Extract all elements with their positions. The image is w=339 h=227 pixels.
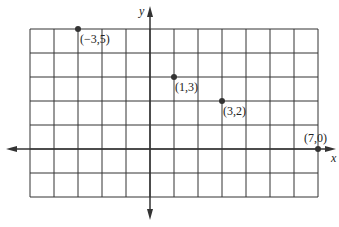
point-label: (1,3) [175, 80, 198, 94]
point-label: (7,0) [304, 131, 327, 145]
x-axis-label: x [330, 151, 337, 165]
point-label: (3,2) [223, 104, 246, 118]
x-axis-left-arrow-icon [6, 146, 17, 152]
plotted-points: (−3,5)(1,3)(3,2)(7,0) [75, 26, 327, 152]
coordinate-plane: x y (−3,5)(1,3)(3,2)(7,0) [0, 0, 339, 227]
y-axis-label: y [138, 4, 145, 18]
axes: x y [6, 4, 337, 220]
point-label: (−3,5) [80, 32, 110, 46]
y-axis-down-arrow-icon [147, 209, 153, 220]
y-axis-up-arrow-icon [147, 6, 153, 17]
grid-lines [30, 29, 318, 197]
point-marker [315, 146, 321, 152]
